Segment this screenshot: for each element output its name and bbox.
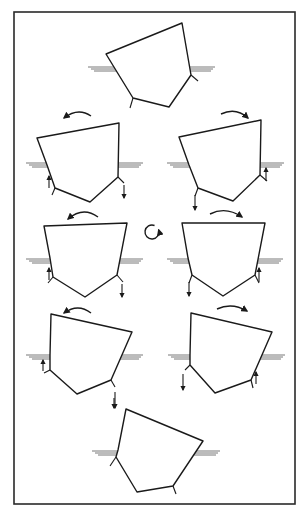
hull-row4-right [168,306,285,393]
hull-row2-right [167,111,284,210]
hull-row3-left [26,212,143,297]
roll-left-arrow-icon [64,112,91,118]
diagram-stage [0,0,308,516]
bilge-keel [255,275,259,283]
hull-row4-left [26,308,143,408]
roll-right-arrow-icon [210,211,242,217]
hull-row2-left [26,112,143,202]
bilge-keel [195,188,198,196]
bilge-keel [130,98,133,108]
hull-bottom [92,409,220,494]
bilge-keel [173,486,176,494]
bilge-keel [117,275,123,282]
hull-outline [182,223,265,296]
hull-outline [37,123,119,202]
roll-left-arrow-icon [64,308,91,313]
hull-outline [44,223,127,297]
hull-outline [106,23,191,107]
clockwise-rotation-icon [145,225,159,239]
bilge-keel [111,380,115,387]
roll-right-arrow-icon [221,111,248,118]
rotation-arc [145,225,159,239]
bilge-keel [185,365,190,370]
hull-group [26,23,285,494]
bilge-keel [44,370,50,373]
roll-left-arrow-icon [68,212,98,219]
hull-outline [116,409,203,492]
hull-outline [50,314,132,394]
roll-right-arrow-icon [217,306,247,311]
bilge-keel [52,188,55,195]
bilge-keel [251,380,253,388]
bilge-keel [191,75,198,81]
hull-outline [179,120,261,201]
hull-outline [190,313,272,393]
bilge-keel [189,275,192,283]
hull-row3-right [167,211,283,296]
hull-roll-diagram [0,0,308,516]
bilge-keel [110,457,116,466]
bilge-keel [118,177,124,183]
hull-top [88,23,215,108]
